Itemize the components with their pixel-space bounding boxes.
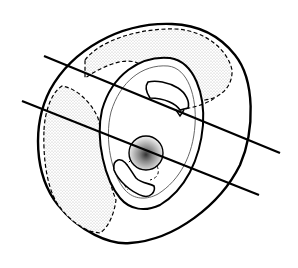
diagram-canvas: Line drawing of a rounded shell-like obj…: [0, 0, 298, 268]
central-hub: [129, 136, 163, 170]
diagram-svg: [0, 0, 298, 268]
